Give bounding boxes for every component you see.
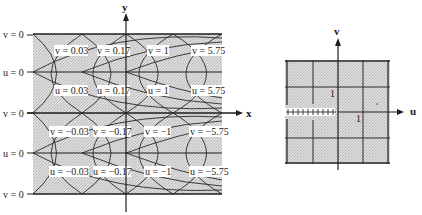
cell-label: v = −0.03 [50,126,89,137]
boundary-label: v = 0 [3,189,24,200]
v-tick-label: 1 [330,88,335,99]
boundary-label: v = 0 [3,29,24,40]
boundary-label: u = 0 [3,148,24,159]
cell-label: u = −1 [145,166,171,177]
y-axis-label: y [122,1,128,13]
cell-label: u = 0.17 [97,85,130,96]
boundary-label: u = 0 [3,67,24,78]
figure-canvas: v = 0 u = 0 v = 0 u = 0 v = 0 v = 0.03 v… [0,0,422,215]
cell-label: u = −5.75 [190,166,229,177]
boundary-label: v = 0 [3,108,24,119]
cell-label: v = −1 [145,126,171,137]
cell-label: v = 5.75 [192,45,225,56]
v-axis-label: v [334,25,340,37]
x-axis-label: x [246,107,252,119]
u-axis-arrow-icon [397,109,404,115]
right-diagram: u v 1 1 [285,25,416,170]
speck [376,103,378,105]
u-tick-label: 1 [356,113,361,124]
cell-label: u = −0.03 [50,166,89,177]
y-axis-arrow-icon [123,13,129,21]
cell-label: u = 0.03 [55,85,88,96]
cell-label: v = 1 [148,45,169,56]
cell-label: v = 0.03 [55,45,88,56]
cell-label: v = −5.75 [190,126,229,137]
x-axis-arrow-icon [236,110,243,116]
cell-label: u = 1 [148,85,169,96]
left-diagram: v = 0 u = 0 v = 0 u = 0 v = 0 v = 0.03 v… [3,1,252,212]
cell-label: u = 5.75 [192,85,225,96]
u-axis-label: u [410,105,416,117]
cell-label: v = 0.17 [97,45,130,56]
v-axis-arrow-icon [335,38,341,46]
